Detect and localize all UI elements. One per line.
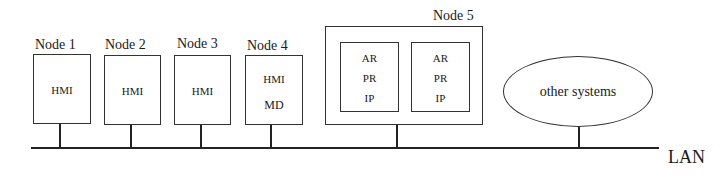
- subsystem-1-ar: AR: [341, 48, 398, 68]
- other-systems-connector: [578, 127, 580, 148]
- node-5-subsystem-1: AR PR IP: [340, 42, 399, 112]
- node-4-connector: [270, 125, 272, 148]
- subsystem-2-pr: PR: [412, 68, 469, 88]
- node-4-hmi: HMI: [246, 74, 302, 85]
- node-5-box: AR PR IP AR PR IP: [325, 26, 483, 125]
- node-5-connector: [396, 125, 398, 148]
- lan-bus-line: [31, 147, 659, 149]
- node-4-box: HMI MD: [245, 55, 303, 125]
- node-2-connector: [130, 125, 132, 148]
- node-2-hmi: HMI: [105, 86, 160, 97]
- node-1-box: HMI: [33, 54, 91, 124]
- node-1-connector: [59, 124, 61, 148]
- node-1-hmi: HMI: [34, 85, 90, 96]
- subsystem-2-ip: IP: [412, 88, 469, 108]
- subsystem-1-pr: PR: [341, 68, 398, 88]
- node-3-box: HMI: [174, 55, 231, 125]
- node-3-connector: [200, 125, 202, 148]
- subsystem-1-ip: IP: [341, 88, 398, 108]
- lan-label: LAN: [668, 148, 705, 166]
- other-systems-label: other systems: [504, 85, 652, 99]
- node-3-hmi: HMI: [175, 86, 230, 97]
- node-2-label: Node 2: [105, 38, 146, 52]
- node-3-label: Node 3: [177, 37, 218, 51]
- node-2-box: HMI: [104, 55, 161, 125]
- node-4-label: Node 4: [247, 39, 288, 53]
- node-4-md: MD: [246, 100, 302, 111]
- node-1-label: Node 1: [35, 38, 76, 52]
- subsystem-2-ar: AR: [412, 48, 469, 68]
- node-5-label: Node 5: [433, 9, 474, 23]
- node-5-subsystem-2: AR PR IP: [411, 42, 470, 112]
- other-systems-ellipse: other systems: [503, 56, 653, 127]
